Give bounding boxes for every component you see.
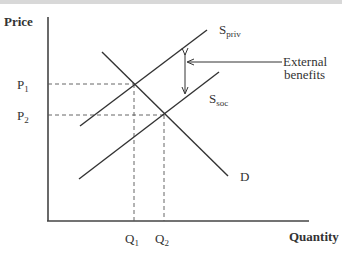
q1-label: Q1 [125, 231, 139, 248]
s-soc-label: Ssoc [209, 91, 228, 108]
demand-label: D [240, 169, 249, 184]
y-axis-label: Price [4, 14, 33, 29]
private-supply-curve [80, 30, 207, 126]
annotation-line2: benefits [284, 67, 325, 82]
s-priv-label: Spriv [219, 22, 241, 39]
guide-lines [48, 84, 164, 221]
x-axis-label: Quantity [289, 229, 339, 244]
p2-label: P2 [17, 108, 29, 125]
externality-diagram: Price Quantity P1 P2 Q1 Q2 Spriv Ssoc D … [0, 0, 342, 257]
social-supply-curve [79, 72, 219, 179]
q2-label: Q2 [155, 231, 169, 248]
p1-label: P1 [17, 77, 29, 94]
axes [47, 17, 309, 221]
